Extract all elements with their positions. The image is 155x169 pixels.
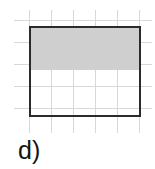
shaded-region	[31, 28, 139, 70]
figure-label: d)	[18, 138, 40, 163]
figure-panel: d)	[0, 0, 155, 169]
area-model-rectangle	[29, 26, 141, 117]
grid-line-horizontal	[14, 20, 152, 21]
